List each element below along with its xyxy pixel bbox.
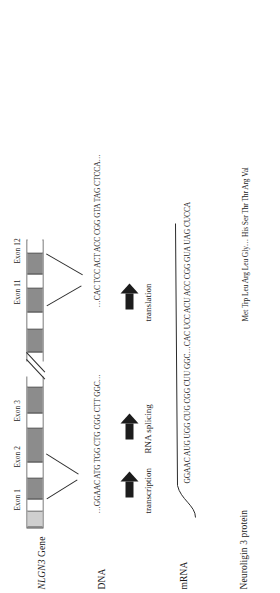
gene-segment-exon <box>27 328 42 352</box>
mrna-sequence-text: GGAAC AUG UGG CUG CGG CUU GGC…CAC UCC AC… <box>182 201 191 483</box>
mrna-sequence: GGAAC AUG UGG CUG CGG CUU GGC…CAC UCC AC… <box>182 201 191 483</box>
leader-line-left-lower <box>45 453 78 474</box>
dna-sequence-3prime-text: …CAC TCC ACT ACC CGG GTA TAG CTCCA… <box>92 154 101 307</box>
gene-segment-intron <box>27 274 42 287</box>
step-label-transcription: transcription <box>142 468 152 514</box>
gene-segment-intron <box>27 499 42 510</box>
gene-segment-intron <box>27 238 42 252</box>
exon-label-1: Exon 1 <box>12 489 21 510</box>
protein-sequence: Met Trp Leu Arg Leu Gly… His Ser Thr Thr… <box>240 167 249 321</box>
gene-segment-exon <box>27 477 42 499</box>
gene-segment-exon <box>27 510 42 527</box>
exon-label-12-text: Exon 12 <box>12 238 21 263</box>
gene-segment-exon <box>27 427 42 462</box>
leader-line-right-lower <box>46 253 83 275</box>
step-label-translation: translation <box>142 283 152 321</box>
exon-label-3: Exon 3 <box>12 400 21 421</box>
figure-canvas: NLGN3 Gene DNA mRNA Neuroligin 3 protein… <box>0 0 280 593</box>
step-label-transcription-text: transcription <box>142 468 152 514</box>
gene-segment-intron <box>27 413 42 427</box>
row-title-protein: Neuroligin 3 protein <box>238 509 248 589</box>
dna-sequence-5prime: …GGAAC ATG TGG CTG CGG CTT GGC… <box>92 374 101 513</box>
mrna-label-text: mRNA <box>178 561 188 589</box>
step-label-rna-splicing-text: RNA splicing <box>142 404 152 453</box>
right-arrow-icon <box>120 413 138 439</box>
exon-label-3-text: Exon 3 <box>12 400 21 421</box>
gene-segment-intron <box>27 462 42 477</box>
row-title-gene: NLGN3 Gene <box>36 536 46 589</box>
row-title-mrna: mRNA <box>178 561 188 589</box>
right-arrow-icon <box>120 471 138 497</box>
gene-diagram-bar <box>26 239 43 528</box>
step-label-rna-splicing: RNA splicing <box>142 404 152 453</box>
exon-label-1-text: Exon 1 <box>12 489 21 510</box>
protein-sequence-text: Met Trp Leu Arg Leu Gly… His Ser Thr Thr… <box>240 167 249 321</box>
exon-label-2: Exon 2 <box>12 446 21 467</box>
exon-label-12: Exon 12 <box>12 238 21 263</box>
leader-line-left-upper <box>46 479 77 499</box>
right-arrow-icon <box>120 283 138 309</box>
leader-line-right-upper <box>46 285 81 306</box>
exon-label-2-text: Exon 2 <box>12 446 21 467</box>
exon-label-11-text: Exon 11 <box>12 279 21 304</box>
gene-name-rest: Gene <box>36 536 46 559</box>
gene-name-italic: NLGN3 <box>36 559 46 589</box>
dna-sequence-3prime: …CAC TCC ACT ACC CGG GTA TAG CTCCA… <box>92 154 101 307</box>
exon-label-11: Exon 11 <box>12 279 21 304</box>
gene-segment-exon <box>27 287 42 312</box>
dna-label-text: DNA <box>96 568 106 589</box>
gene-segment-intron <box>27 312 42 328</box>
dna-sequence-5prime-text: …GGAAC ATG TGG CTG CGG CTT GGC… <box>92 374 101 513</box>
row-title-dna: DNA <box>96 568 106 589</box>
figure-stage: NLGN3 Gene DNA mRNA Neuroligin 3 protein… <box>0 0 280 593</box>
step-label-translation-text: translation <box>142 283 152 321</box>
protein-label-text: Neuroligin 3 protein <box>238 509 248 589</box>
gene-segment-exon <box>27 252 42 274</box>
gene-segment-exon <box>27 386 42 413</box>
